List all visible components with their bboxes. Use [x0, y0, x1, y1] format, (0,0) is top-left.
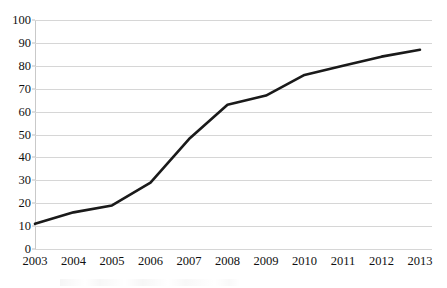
- x-tick-label: 2007: [176, 255, 201, 268]
- x-tick-label: 2011: [331, 255, 356, 268]
- x-tick-label: 2009: [253, 255, 278, 268]
- y-tick-label: 20: [0, 197, 31, 210]
- y-tick-label: 50: [0, 128, 31, 141]
- line-chart: 0102030405060708090100 20032004200520062…: [0, 0, 447, 288]
- x-tick-label: 2013: [407, 255, 432, 268]
- y-tick-label: 80: [0, 60, 31, 73]
- x-axis: 2003200420052006200720082009201020112012…: [35, 255, 432, 277]
- plot-area: [35, 20, 432, 249]
- y-tick-label: 60: [0, 105, 31, 118]
- x-tick-label: 2006: [138, 255, 163, 268]
- x-tick-label: 2010: [292, 255, 317, 268]
- caption-artifact: [60, 279, 240, 286]
- y-tick-label: 90: [0, 37, 31, 50]
- x-tick-label: 2005: [99, 255, 124, 268]
- y-tick-label: 30: [0, 174, 31, 187]
- y-tick-label: 40: [0, 151, 31, 164]
- x-tick-label: 2008: [215, 255, 240, 268]
- gridline: [35, 249, 432, 250]
- y-tick-label: 70: [0, 82, 31, 95]
- y-axis: 0102030405060708090100: [0, 0, 31, 288]
- x-tick-label: 2003: [23, 255, 48, 268]
- y-tick-label: 10: [0, 220, 31, 233]
- y-tick-label: 100: [0, 14, 31, 27]
- x-tick-label: 2012: [369, 255, 394, 268]
- series-line: [35, 20, 432, 249]
- x-tick-label: 2004: [61, 255, 86, 268]
